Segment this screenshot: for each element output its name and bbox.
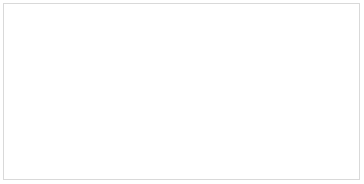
dragonfly-wings-image	[0, 0, 364, 184]
specimen-plate	[0, 0, 364, 184]
